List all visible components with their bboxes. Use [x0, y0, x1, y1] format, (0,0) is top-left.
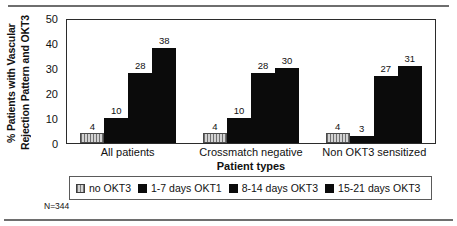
legend-item[interactable]: no OKT3 — [76, 182, 131, 194]
bar-value-label: 38 — [159, 35, 170, 46]
bar: 10 — [227, 118, 251, 143]
bar-groups: 41028384102830432731 — [67, 20, 435, 143]
bar-set: 4102830 — [203, 20, 299, 143]
legend-item[interactable]: 8-14 days OKT3 — [229, 182, 318, 194]
bar-value-label: 10 — [111, 105, 122, 116]
legend-swatch-icon — [325, 184, 334, 193]
top-rule — [8, 5, 449, 7]
bar-value-label: 27 — [380, 63, 391, 74]
bar-set: 4102838 — [80, 20, 176, 143]
legend-label: no OKT3 — [89, 182, 131, 194]
legend-label: 15-21 days OKT3 — [338, 182, 420, 194]
y-axis-tick-label: 20 — [46, 88, 58, 100]
bar-set: 432731 — [326, 20, 422, 143]
bar-value-label: 4 — [212, 121, 217, 132]
y-axis-ticks: 01020304050 — [0, 19, 62, 144]
bar-value-label: 30 — [282, 55, 293, 66]
sample-size-note: N=344 — [44, 201, 69, 211]
bar-group: 4102830 — [190, 20, 313, 143]
y-axis-tick-label: 0 — [52, 138, 58, 150]
bar-value-label: 3 — [359, 123, 364, 134]
bar: 3 — [350, 136, 374, 144]
bar-value-label: 4 — [90, 121, 95, 132]
chart-figure: % Patients with Vascular Rejection Patte… — [0, 0, 457, 226]
bar: 31 — [398, 66, 422, 144]
bar: 28 — [128, 73, 152, 143]
bar: 27 — [374, 76, 398, 144]
bar-group: 4102838 — [67, 20, 190, 143]
x-axis-title: Patient types — [66, 160, 436, 172]
bar-value-label: 4 — [335, 121, 340, 132]
plot-area: 41028384102830432731 — [66, 19, 436, 144]
bar-value-label: 31 — [404, 53, 415, 64]
chart-legend: no OKT31-7 days OKT18-14 days OKT315-21 … — [69, 176, 432, 200]
bar: 4 — [80, 133, 104, 143]
bar: 4 — [203, 133, 227, 143]
legend-swatch-icon — [76, 184, 85, 193]
bar: 28 — [251, 73, 275, 143]
bar-group: 432731 — [312, 20, 435, 143]
bar: 30 — [275, 68, 299, 143]
legend-label: 8-14 days OKT3 — [242, 182, 318, 194]
bar-value-label: 10 — [234, 105, 245, 116]
bar-value-label: 28 — [135, 60, 146, 71]
y-axis-tick-label: 30 — [46, 63, 58, 75]
legend-swatch-icon — [229, 184, 238, 193]
bottom-rule — [4, 219, 453, 221]
bar-value-label: 28 — [258, 60, 269, 71]
legend-item[interactable]: 15-21 days OKT3 — [325, 182, 420, 194]
bar: 4 — [326, 133, 350, 143]
bar: 38 — [152, 48, 176, 143]
legend-swatch-icon — [138, 184, 147, 193]
legend-item[interactable]: 1-7 days OKT1 — [138, 182, 222, 194]
legend-label: 1-7 days OKT1 — [151, 182, 222, 194]
y-axis-tick-label: 10 — [46, 113, 58, 125]
y-axis-tick-label: 40 — [46, 38, 58, 50]
bar: 10 — [104, 118, 128, 143]
y-axis-tick-label: 50 — [46, 13, 58, 25]
